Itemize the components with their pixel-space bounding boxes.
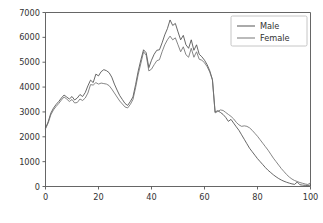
x-tick-label: 80 — [252, 192, 262, 202]
legend-label-female[interactable]: Female — [260, 33, 290, 43]
x-tick-label: 40 — [146, 192, 156, 202]
y-tick-label: 1000 — [19, 157, 40, 167]
x-tick-label: 60 — [199, 192, 209, 202]
chart-figure: 01000200030004000500060007000 0204060801… — [0, 0, 323, 223]
y-tick-label: 5000 — [19, 57, 40, 67]
x-tick-label: 20 — [93, 192, 103, 202]
y-tick-label: 4000 — [19, 82, 40, 92]
y-tick-label: 2000 — [19, 132, 40, 142]
y-tick-label: 7000 — [19, 8, 40, 18]
y-tick-label: 3000 — [19, 107, 40, 117]
legend-label-male[interactable]: Male — [260, 21, 279, 31]
line-chart: 01000200030004000500060007000 0204060801… — [0, 0, 323, 223]
x-tick-label: 0 — [43, 192, 48, 202]
y-tick-label: 6000 — [19, 32, 40, 42]
y-tick-label: 0 — [35, 182, 40, 192]
chart-legend[interactable]: MaleFemale — [231, 16, 307, 46]
x-tick-label: 100 — [303, 192, 319, 202]
